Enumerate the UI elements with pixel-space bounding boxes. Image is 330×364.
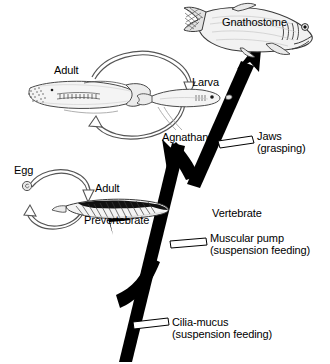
label-prevertebrate-egg: Egg bbox=[14, 164, 33, 177]
agnathan-cycle-arrowhead-adult bbox=[89, 116, 102, 127]
label-prevertebrate: Prevertebrate bbox=[84, 214, 149, 227]
prevertebrate-cycle-arrows bbox=[28, 170, 90, 229]
character-jaws-name: Jaws bbox=[257, 130, 306, 142]
muscular-pump-mark bbox=[170, 238, 207, 248]
jaws-mark bbox=[218, 136, 254, 148]
label-agnathan-adult: Adult bbox=[54, 64, 79, 77]
character-muscular-pump-name: Muscular pump bbox=[210, 232, 310, 244]
lamprey-adult-illustration bbox=[28, 81, 150, 113]
diagram-canvas bbox=[0, 0, 330, 364]
label-gnathostome: Gnathostome bbox=[222, 16, 287, 29]
character-muscular-pump: Muscular pump (suspension feeding) bbox=[210, 232, 310, 256]
egg-icon bbox=[22, 181, 31, 190]
character-cilia-mucus-name: Cilia-mucus bbox=[172, 316, 272, 328]
label-prevertebrate-adult: Adult bbox=[95, 182, 120, 195]
character-cilia-mucus-note: (suspension feeding) bbox=[172, 328, 272, 340]
character-jaws: Jaws (grasping) bbox=[257, 130, 306, 154]
character-muscular-pump-note: (suspension feeding) bbox=[210, 244, 310, 256]
character-jaws-note: (grasping) bbox=[257, 142, 306, 154]
gnathostome-fish-illustration bbox=[184, 3, 312, 57]
label-agnathan-larva: Larva bbox=[192, 76, 219, 89]
evolution-diagram: Gnathostome Adult Larva Agnathan Egg Adu… bbox=[0, 0, 330, 364]
label-agnathan: Agnathan bbox=[162, 131, 208, 144]
label-vertebrate: Vertebrate bbox=[212, 207, 262, 220]
prevertebrate-cycle-arrowhead-egg bbox=[24, 205, 36, 216]
character-cilia-mucus: Cilia-mucus (suspension feeding) bbox=[172, 316, 272, 340]
